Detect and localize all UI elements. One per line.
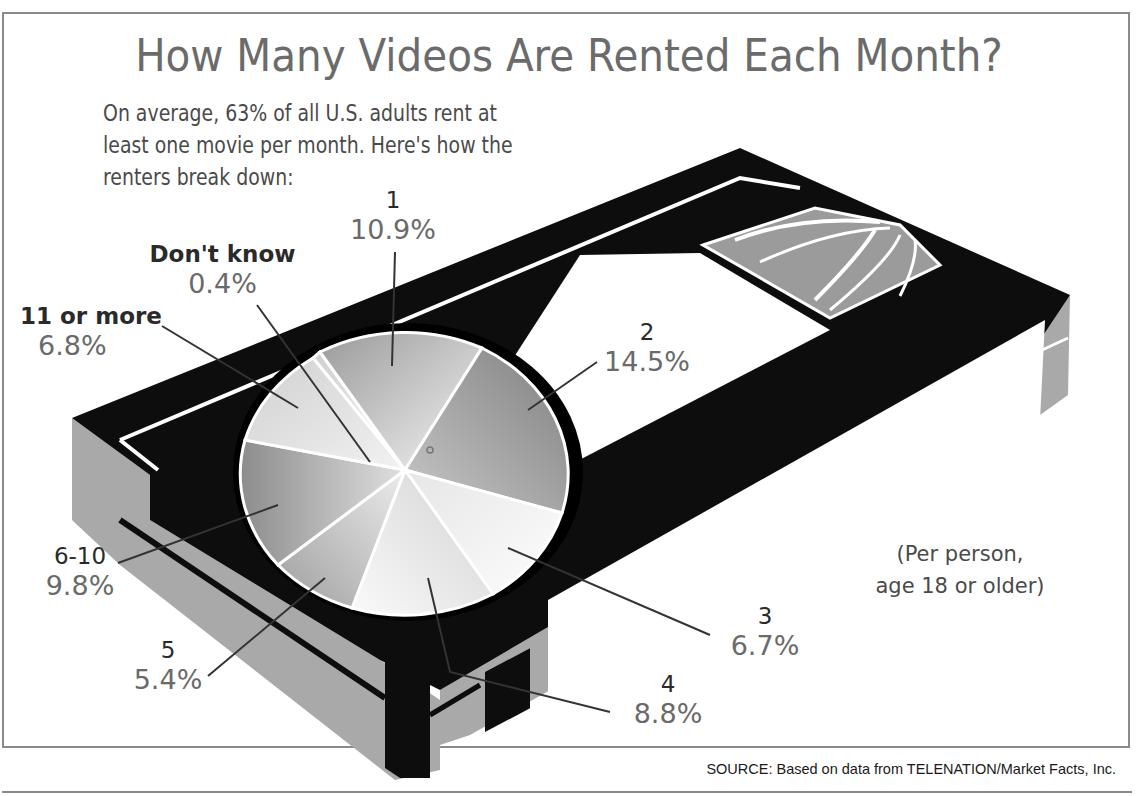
pie-chart <box>236 326 580 618</box>
label-category: 3 <box>715 602 815 630</box>
label-value: 0.4% <box>140 268 305 300</box>
label-category: 5 <box>118 636 218 664</box>
subtitle-line: On average, 63% of all U.S. adults rent … <box>103 97 599 129</box>
annotation-line: age 18 or older) <box>840 570 1080 602</box>
label-value: 8.8% <box>618 698 718 730</box>
subtitle-line: least one movie per month. Here's how th… <box>103 129 599 161</box>
label-one: 1 10.9% <box>338 186 448 246</box>
annotation-line: (Per person, <box>840 538 1080 570</box>
label-eleven-or-more: 11 or more 6.8% <box>20 302 170 362</box>
label-category: 1 <box>338 186 448 214</box>
label-category: Don't know <box>140 240 305 268</box>
label-value: 5.4% <box>118 664 218 696</box>
label-value: 6.8% <box>20 330 170 362</box>
label-two: 2 14.5% <box>592 318 702 378</box>
label-value: 6.7% <box>715 630 815 662</box>
label-three: 3 6.7% <box>715 602 815 662</box>
chart-annotation: (Per person, age 18 or older) <box>840 538 1080 602</box>
chart-title: How Many Videos Are Rented Each Month? <box>46 30 1093 81</box>
label-category: 11 or more <box>20 302 170 330</box>
label-category: 4 <box>618 670 718 698</box>
chart-subtitle: On average, 63% of all U.S. adults rent … <box>103 97 599 193</box>
label-six-ten: 6-10 9.8% <box>30 542 130 602</box>
label-category: 2 <box>592 318 702 346</box>
label-four: 4 8.8% <box>618 670 718 730</box>
label-dont-know: Don't know 0.4% <box>140 240 305 300</box>
source-credit: SOURCE: Based on data from TELENATION/Ma… <box>706 761 1116 777</box>
label-five: 5 5.4% <box>118 636 218 696</box>
label-value: 14.5% <box>592 346 702 378</box>
label-value: 9.8% <box>30 570 130 602</box>
label-value: 10.9% <box>338 214 448 246</box>
label-category: 6-10 <box>30 542 130 570</box>
